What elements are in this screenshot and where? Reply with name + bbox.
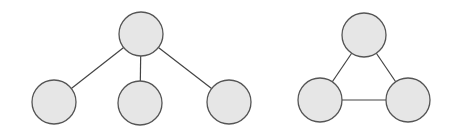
node-bottom-right bbox=[386, 78, 430, 122]
node-child-left bbox=[32, 80, 76, 124]
edge-top-bottom-right bbox=[376, 53, 395, 82]
triangle-graph bbox=[298, 13, 430, 122]
node-root bbox=[119, 12, 163, 56]
graph-diagrams bbox=[0, 0, 453, 134]
edge-top-bottom-left bbox=[332, 53, 351, 82]
edge-root-child-right bbox=[158, 47, 211, 88]
node-top bbox=[342, 13, 386, 57]
tree-graph bbox=[32, 12, 251, 125]
node-child-middle bbox=[118, 81, 162, 125]
node-bottom-left bbox=[298, 78, 342, 122]
node-child-right bbox=[207, 80, 251, 124]
edge-root-child-left bbox=[71, 48, 123, 89]
